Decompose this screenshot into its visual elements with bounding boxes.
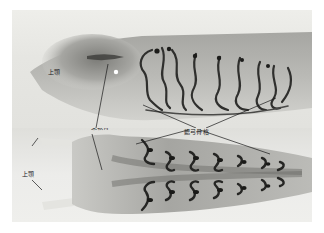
label-branchial-arch-skeleton: 鰓弓骨格	[184, 128, 209, 135]
lateral-view-panel: 上顎	[12, 10, 312, 128]
label-trabecular-cartilage: 梁軟骨	[91, 128, 110, 130]
label-upper-jaw-bottom: 上顎	[22, 170, 34, 177]
label-upper-jaw-top: 上顎	[48, 68, 60, 75]
figure: 上顎	[0, 0, 324, 233]
ventral-view-panel: 梁軟骨 鰓弓骨格 上顎	[12, 128, 312, 222]
ventral-embryo-image	[12, 128, 312, 222]
